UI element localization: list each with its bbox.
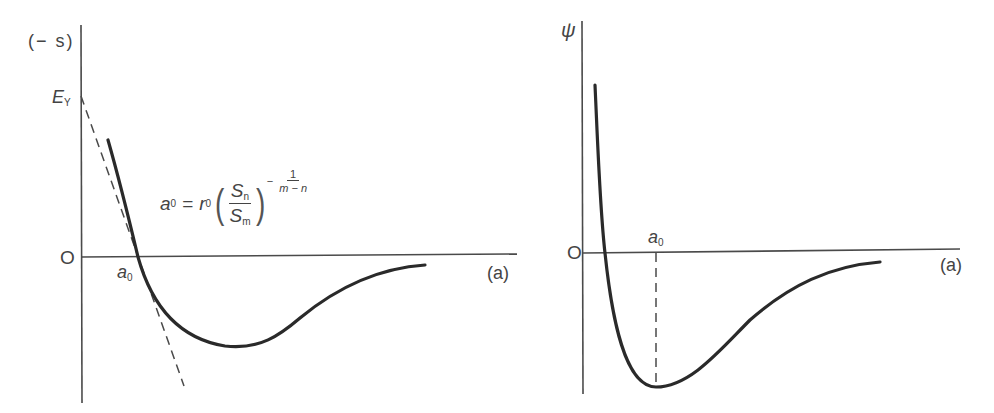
right-y-axis: [582, 21, 583, 394]
formula-lhs: a: [160, 193, 171, 215]
formula-exp-frac: 1 m − n: [277, 168, 309, 194]
formula-exp-den: m − n: [277, 181, 309, 194]
ey-label-main: E: [52, 87, 64, 107]
potential-curve: [595, 85, 880, 387]
tangent-dashed-line: [81, 96, 184, 386]
right-y-axis-label: ψ: [561, 20, 576, 40]
left-x-axis: [81, 254, 517, 257]
right-origin-label: O: [567, 243, 582, 262]
left-root-label: a0: [117, 263, 133, 283]
right-min-label: a0: [648, 228, 664, 248]
left-x-axis-label: (a): [487, 264, 509, 282]
formula-open-paren: (: [215, 184, 224, 224]
right-x-axis: [583, 249, 960, 253]
formula-exp-num: 1: [287, 168, 299, 181]
formula-ratio: Sn Sm: [227, 180, 252, 227]
right-min-label-sub: 0: [658, 237, 664, 248]
formula-r-sub: 0: [206, 198, 212, 209]
left-y-axis: [81, 25, 82, 403]
formula-lhs-sub: 0: [171, 198, 177, 209]
ey-label: EY: [52, 88, 71, 108]
formula-exp-sign: −: [267, 175, 273, 187]
left-root-label-main: a: [117, 262, 127, 282]
formula-exponent: − 1 m − n: [267, 168, 310, 194]
formula-denominator: Sm: [227, 204, 252, 227]
ey-label-sub: Y: [64, 97, 71, 108]
equilibrium-formula: a0 = r0 ( Sn Sm ) − 1 m − n: [160, 180, 310, 227]
right-panel: [582, 21, 960, 394]
diagram-canvas: [0, 0, 994, 413]
formula-equals: =: [182, 193, 193, 215]
right-x-axis-label: (a): [940, 256, 962, 274]
left-root-label-sub: 0: [127, 272, 133, 283]
left-origin-label: O: [60, 248, 75, 267]
left-y-axis-label: (− s): [28, 32, 75, 50]
formula-close-paren: ): [255, 184, 264, 224]
right-min-label-main: a: [648, 227, 658, 247]
formula-numerator: Sn: [229, 180, 251, 204]
